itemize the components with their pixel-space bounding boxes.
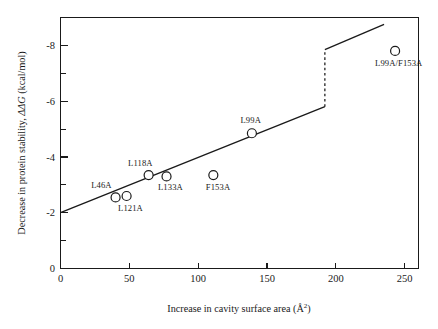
data-point-label-l133a: L133A [158,182,184,192]
data-point-l46a[interactable] [111,193,120,202]
y-axis-title: Decrease in protein stability, ΔΔG (kcal… [16,51,28,234]
y-tick-label: 0 [50,263,55,274]
data-point-labels: L46A L121A L118A L133A F153A L99A L99A/F… [91,58,423,213]
data-point-label-f153a: F153A [206,182,231,192]
scatter-plot: 0 50 100 150 200 250 0 -2 -4 [0,0,438,329]
y-tick-label: -4 [46,152,55,163]
data-point-label-l46a: L46A [91,180,112,190]
upper-correlation-line [325,24,384,49]
x-tick-label: 150 [259,273,275,284]
x-axis-title: Increase in cavity surface area (Å2) [167,302,311,315]
data-point-label-l99a: L99A [240,115,261,125]
x-tick-label: 100 [190,273,206,284]
x-tick-label: 0 [58,273,63,284]
y-tick-label: -8 [46,40,55,51]
y-tick-label: -6 [46,96,55,107]
x-axis-title-tail: ) [307,303,310,315]
data-point-l118a[interactable] [144,171,153,180]
data-point-l99a[interactable] [247,129,256,138]
data-point-l99a-f153a[interactable] [391,46,400,55]
data-point-l133a[interactable] [162,172,171,181]
data-point-label-l99a-f153a: L99A/F153A [375,58,423,68]
data-point-f153a[interactable] [209,171,218,180]
y-axis-title-part2: (kcal/mol) [16,51,28,96]
x-tick-label: 50 [124,273,135,284]
x-axis-tick-labels: 0 50 100 150 200 250 [58,273,413,284]
data-point-l121a[interactable] [122,191,131,200]
figure-container: 0 50 100 150 200 250 0 -2 -4 [0,0,438,329]
x-tick-label: 200 [328,273,344,284]
x-axis-ticks [61,263,405,269]
data-point-label-l118a: L118A [128,158,153,168]
y-axis-title-part1: Decrease in protein stability, [16,116,27,235]
y-axis-ticks [61,45,68,268]
y-axis-minor-ticks [61,18,66,241]
x-axis-title-main: Increase in cavity surface area (Å [167,303,304,315]
x-tick-label: 250 [397,273,413,284]
data-point-label-l121a: L121A [118,203,144,213]
y-tick-label: -2 [46,207,55,218]
plot-frame [61,18,419,269]
lower-correlation-line [61,107,325,213]
y-axis-title-symbol: ΔΔG [16,96,27,117]
y-axis-tick-labels: 0 -2 -4 -6 -8 [46,40,55,274]
